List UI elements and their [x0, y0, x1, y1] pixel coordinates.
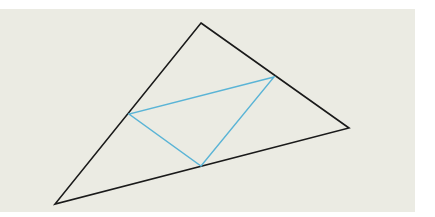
triangle-diagram: [0, 0, 435, 217]
outer-triangle: [55, 23, 349, 204]
